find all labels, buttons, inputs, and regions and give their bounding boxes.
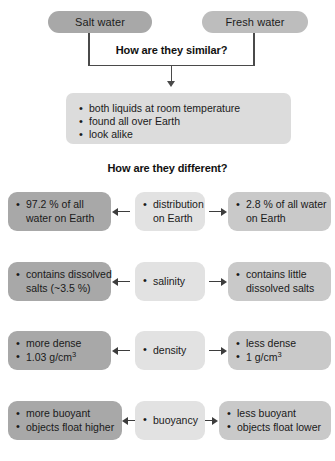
similar-arrow-head (167, 81, 175, 87)
similar-list: both liquids at room temperature found a… (78, 102, 291, 142)
list-item: both liquids at room temperature (78, 102, 291, 115)
similar-arrow-stem (171, 66, 173, 82)
row-density-left-list: more dense 1.03 g/cm3 (15, 337, 81, 363)
row-distribution-left-arrow-shaft (117, 211, 130, 212)
row-distribution-left-arrow-head (112, 208, 118, 216)
row-salinity-right-box: contains little dissolved salts (228, 262, 331, 301)
density-value-left: 1.03 g/cm3 (26, 351, 76, 363)
row-salinity-property-list: salinity (142, 275, 185, 288)
row-density-left-arrow-head (112, 347, 118, 355)
row-distribution-left-box: 97.2 % of all water on Earth (8, 192, 111, 231)
row-salinity-left-list: contains dissolved salts (~3.5 %) (15, 268, 112, 294)
row-distribution-right-list: 2.8 % of all water on Earth (235, 198, 327, 224)
list-item: objects float lower (226, 421, 321, 434)
row-buoyancy-left-arrow-head (122, 417, 128, 425)
row-salinity-left-arrow-head (112, 278, 118, 286)
row-density-property-list: density (142, 344, 186, 357)
list-item-continuation: on Earth (235, 212, 327, 225)
row-density-property-box: density (135, 331, 205, 370)
row-density-right-arrow-head (221, 347, 227, 355)
fresh-water-box: Fresh water (202, 11, 308, 33)
list-item: salinity (142, 275, 185, 288)
row-buoyancy-left-arrow-shaft (127, 420, 135, 421)
list-item-continuation: on Earth (142, 212, 204, 225)
list-item: less dense (235, 337, 296, 350)
different-heading: How are they different? (0, 162, 335, 174)
row-density-right-list: less dense 1 g/cm3 (235, 337, 296, 363)
row-distribution-property-box: distribution on Earth (135, 192, 205, 231)
salt-water-label: Salt water (75, 16, 125, 28)
row-buoyancy-right-arrow-head (212, 417, 218, 425)
list-item: found all over Earth (78, 115, 291, 128)
row-buoyancy-left-box: more buoyant objects float higher (8, 401, 122, 440)
row-distribution-right-box: 2.8 % of all water on Earth (228, 192, 331, 231)
list-item: density (142, 344, 186, 357)
list-item: buoyancy (142, 414, 198, 427)
density-value-right: 1 g/cm3 (246, 351, 282, 363)
row-buoyancy-property-list: buoyancy (142, 414, 198, 427)
row-density-left-arrow-shaft (117, 350, 130, 351)
list-item: contains little (235, 268, 314, 281)
similar-heading: How are they similar? (88, 44, 255, 56)
row-buoyancy-property-box: buoyancy (135, 401, 205, 440)
list-item-continuation: dissolved salts (235, 282, 314, 295)
row-distribution-left-list: 97.2 % of all water on Earth (15, 198, 94, 224)
list-item: look alike (78, 128, 291, 141)
row-density-right-box: less dense 1 g/cm3 (228, 331, 331, 370)
row-salinity-property-box: salinity (135, 262, 205, 301)
list-item: distribution (142, 198, 204, 211)
row-salinity-right-arrow-head (221, 278, 227, 286)
list-item: 1.03 g/cm3 (15, 351, 81, 364)
list-item: more buoyant (15, 407, 114, 420)
list-item: 97.2 % of all (15, 198, 94, 211)
list-item: 1 g/cm3 (235, 351, 296, 364)
row-buoyancy-right-box: less buoyant objects float lower (219, 401, 331, 440)
row-buoyancy-left-list: more buoyant objects float higher (15, 407, 114, 433)
list-item: contains dissolved (15, 268, 112, 281)
row-buoyancy-right-list: less buoyant objects float lower (226, 407, 321, 433)
similar-panel: both liquids at room temperature found a… (66, 93, 291, 144)
list-item-continuation: salts (~3.5 %) (15, 282, 112, 295)
row-salinity-right-list: contains little dissolved salts (235, 268, 314, 294)
list-item: less buoyant (226, 407, 321, 420)
salt-water-box: Salt water (48, 11, 152, 33)
list-item: 2.8 % of all water (235, 198, 327, 211)
row-density-left-box: more dense 1.03 g/cm3 (8, 331, 111, 370)
row-salinity-left-box: contains dissolved salts (~3.5 %) (8, 262, 111, 301)
row-distribution-property-list: distribution on Earth (142, 198, 204, 224)
fresh-water-label: Fresh water (225, 16, 284, 28)
list-item-continuation: water on Earth (15, 212, 94, 225)
list-item: objects float higher (15, 421, 114, 434)
row-distribution-right-arrow-head (221, 208, 227, 216)
row-salinity-left-arrow-shaft (117, 281, 130, 282)
